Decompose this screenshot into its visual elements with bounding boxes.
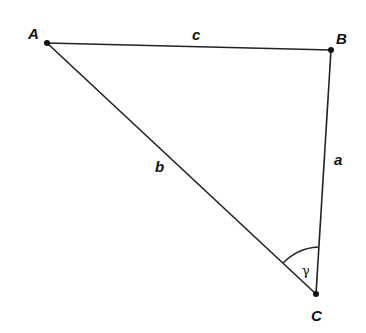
- side-c: [47, 43, 331, 50]
- angle-gamma-label: γ: [302, 263, 310, 278]
- vertex-c-dot: [313, 291, 319, 297]
- side-a-label: a: [334, 151, 342, 168]
- side-b: [47, 43, 316, 294]
- vertex-b-label: B: [336, 30, 347, 47]
- vertex-c-label: C: [311, 307, 323, 324]
- side-a: [316, 50, 331, 294]
- triangle-svg: A B C c a b γ: [0, 0, 366, 333]
- vertex-b-dot: [328, 47, 334, 53]
- vertex-a-label: A: [27, 25, 39, 42]
- angle-gamma-arc: [283, 247, 318, 263]
- side-c-label: c: [192, 26, 201, 43]
- vertex-a-dot: [44, 40, 50, 46]
- side-b-label: b: [155, 158, 164, 175]
- triangle-diagram: A B C c a b γ: [0, 0, 366, 333]
